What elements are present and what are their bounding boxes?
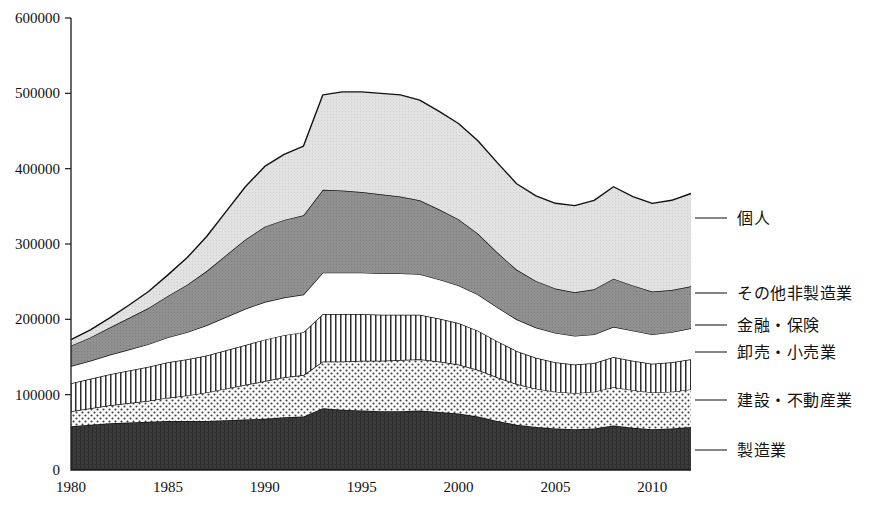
chart-series-areas: [71, 92, 691, 470]
legend-label-2: 金融・保険: [737, 317, 820, 334]
legend-label-3: 卸売・小売業: [737, 344, 836, 361]
y-tick-label-5: 500000: [15, 85, 60, 101]
y-axis-ticks: 0100000200000300000400000500000600000: [15, 10, 71, 478]
x-tick-label-4: 2000: [444, 479, 474, 495]
y-tick-label-3: 300000: [15, 236, 60, 252]
x-tick-label-6: 2010: [637, 479, 667, 495]
x-tick-label-0: 1980: [56, 479, 86, 495]
x-tick-label-3: 1995: [347, 479, 377, 495]
y-tick-label-2: 200000: [15, 311, 60, 327]
legend-label-1: その他非製造業: [737, 285, 853, 302]
legend-label-0: 個人: [737, 210, 770, 227]
x-axis-ticks: 1980198519901995200020052010: [56, 479, 667, 495]
legend-label-4: 建設・不動産業: [737, 392, 853, 409]
y-tick-label-4: 400000: [15, 161, 60, 177]
x-tick-label-2: 1990: [250, 479, 280, 495]
legend-label-5: 製造業: [737, 442, 787, 459]
chart-legend: 個人その他非製造業金融・保険卸売・小売業建設・不動産業製造業: [695, 210, 853, 459]
x-tick-label-1: 1985: [153, 479, 183, 495]
x-tick-label-5: 2005: [540, 479, 570, 495]
y-tick-label-0: 0: [53, 462, 61, 478]
chart-canvas: 0100000200000300000400000500000600000 19…: [0, 0, 879, 508]
y-tick-label-1: 100000: [15, 387, 60, 403]
stacked-area-chart: 0100000200000300000400000500000600000 19…: [0, 0, 879, 508]
y-tick-label-6: 600000: [15, 10, 60, 26]
